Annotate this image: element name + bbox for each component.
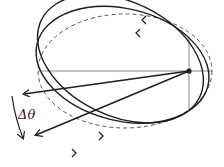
- delta-theta-label: Δθ: [18, 107, 35, 122]
- focus-point: [186, 68, 191, 73]
- orbit-1-lower-direction-arrow: [99, 132, 103, 140]
- radial-line-2: [36, 71, 189, 135]
- delta-theta-text: Δθ: [18, 107, 35, 122]
- orbit-2-direction-arrow: [136, 29, 140, 37]
- orbit-2: [16, 0, 224, 149]
- precession-diagram: [0, 0, 224, 167]
- radial-line-1: [24, 71, 189, 94]
- orbit-1-direction-arrow: [142, 16, 146, 24]
- orbit-2-lower-direction-arrow: [72, 149, 76, 157]
